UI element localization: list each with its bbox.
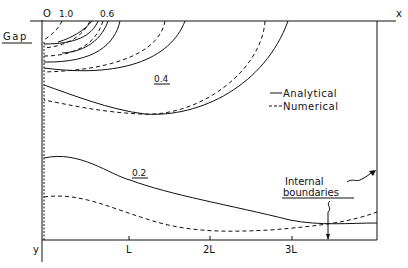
- contour-numerical: [44, 21, 62, 40]
- origin-label: O: [43, 8, 51, 19]
- contour-label-0-4: 0.4: [154, 74, 169, 84]
- tick-label-L: L: [126, 244, 132, 255]
- legend-analytical-label: Analytical: [283, 88, 337, 99]
- contour-analytical: [44, 21, 98, 44]
- contour-label-0-2: 0.2: [132, 168, 146, 178]
- annotation-line1: Internal: [285, 176, 324, 187]
- gap-label: Gap: [3, 31, 28, 42]
- legend-numerical-label: Numerical: [283, 101, 339, 112]
- contour-analytical: [58, 21, 92, 42]
- boundary-arrow-right: [347, 172, 372, 182]
- contour-numerical: [44, 21, 103, 56]
- annotation-line2: boundaries: [283, 187, 339, 198]
- contour-analytical: [44, 21, 288, 114]
- label-1-0: 1.0: [59, 9, 74, 19]
- x-axis-label: x: [396, 8, 402, 19]
- boundary-arrow-down: [328, 201, 330, 239]
- y-axis-label: y: [33, 244, 39, 255]
- contour-analytical: [62, 21, 108, 53]
- tick-label-2L: 2L: [203, 244, 215, 255]
- label-0-6: 0.6: [100, 9, 115, 19]
- contour-analytical: [44, 21, 120, 62]
- tick-label-3L: 3L: [285, 244, 297, 255]
- contour-analytical: [44, 21, 185, 71]
- contour-numerical: [44, 21, 265, 114]
- contour-diagram: O 1.0 0.6 x Gap 0.4 0.2 Analytical Numer…: [0, 0, 408, 268]
